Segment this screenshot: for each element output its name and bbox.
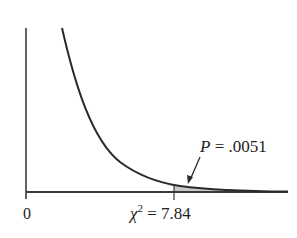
p-value-label: P = .0051 (199, 137, 267, 156)
density-curve (62, 28, 288, 192)
critical-value-label: χ2 = 7.84 (128, 202, 191, 223)
origin-label: 0 (23, 205, 31, 222)
chi-square-chart: 0 χ2 = 7.84 P = .0051 (0, 0, 297, 238)
